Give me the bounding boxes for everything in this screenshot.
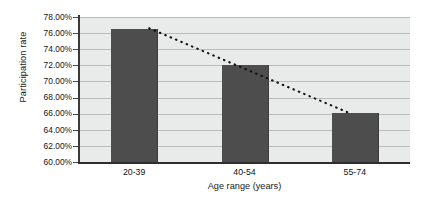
y-axis-tick-label: 72.00% bbox=[24, 61, 72, 69]
y-axis-tick-label: 60.00% bbox=[24, 158, 72, 166]
y-axis-tick-label: 64.00% bbox=[24, 126, 72, 134]
trendline bbox=[79, 17, 410, 162]
y-axis-tick-label: 70.00% bbox=[24, 77, 72, 85]
y-axis-tick-label: 74.00% bbox=[24, 45, 72, 53]
y-axis-tick-label: 78.00% bbox=[24, 13, 72, 21]
x-axis-tick-label: 40-54 bbox=[189, 167, 299, 177]
trendline-path bbox=[149, 28, 351, 113]
y-axis-tick-label: 68.00% bbox=[24, 93, 72, 101]
x-axis-title: Age range (years) bbox=[79, 181, 410, 191]
y-axis-tick-label: 66.00% bbox=[24, 109, 72, 117]
y-axis-tick-label: 76.00% bbox=[24, 29, 72, 37]
y-axis-tick-labels: 78.00%76.00%74.00%72.00%70.00%68.00%66.0… bbox=[24, 17, 72, 162]
y-axis-line bbox=[78, 15, 80, 164]
x-axis-line bbox=[78, 162, 410, 164]
x-axis-tick-label: 20-39 bbox=[79, 167, 189, 177]
chart-figure: Participation rate 78.00%76.00%74.00%72.… bbox=[0, 0, 431, 200]
y-axis-tick-label: 62.00% bbox=[24, 142, 72, 150]
plot-area bbox=[79, 17, 410, 162]
x-axis-tick-labels: 20-3940-5455-74 bbox=[79, 167, 410, 181]
x-axis-tick-label: 55-74 bbox=[300, 167, 410, 177]
